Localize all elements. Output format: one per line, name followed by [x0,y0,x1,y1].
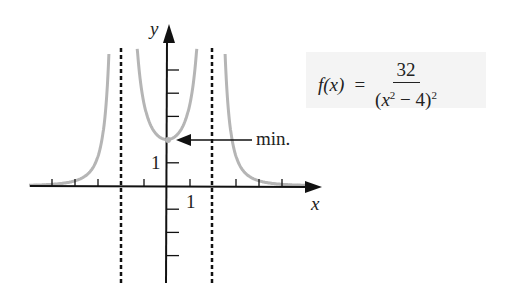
y-tick-label: 1 [151,152,161,174]
curve-segment [29,54,109,185]
formula-numerator: 32 [393,60,420,83]
den-rest: − 4) [395,89,431,110]
formula-fraction: 32 (x2 − 4)2 [375,60,437,110]
x-axis-label: x [311,193,319,215]
den-var: x [381,89,389,110]
formula-equals: = [354,74,365,96]
den-outer-exp: 2 [431,89,437,101]
formula-lhs: f(x) [318,74,344,96]
formula: f(x) = 32 (x2 − 4)2 [318,60,437,110]
y-ticks [167,70,179,256]
graph-plot [0,0,340,300]
x-tick-label: 1 [186,191,196,213]
x-axis-arrow-icon [305,181,322,193]
x-axis [30,186,310,187]
y-axis-arrow-icon [163,24,175,43]
curve-segment [225,54,305,185]
formula-denominator: (x2 − 4)2 [375,83,437,110]
min-label: min. [256,128,290,150]
formula-box: f(x) = 32 (x2 − 4)2 [306,52,486,108]
min-arrow-icon [176,134,191,146]
y-axis-label: y [150,18,158,40]
y-axis [166,40,167,283]
min-point [165,137,171,143]
